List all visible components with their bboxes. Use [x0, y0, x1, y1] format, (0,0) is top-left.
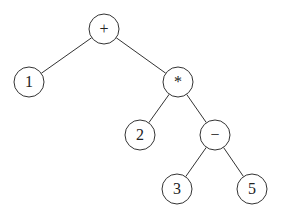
- expression-tree-diagram: +1*2−35: [0, 0, 281, 217]
- node-label: 5: [248, 180, 256, 197]
- edge-n_plus-n_mul: [116, 38, 166, 74]
- tree-node: 5: [237, 174, 267, 204]
- node-label: 2: [136, 126, 144, 143]
- node-label: −: [210, 126, 219, 143]
- edge-n_minus-n_3: [186, 147, 207, 176]
- tree-node: 2: [125, 120, 155, 150]
- tree-node: 3: [162, 174, 192, 204]
- edge-n_mul-n_2: [149, 94, 170, 123]
- node-label: +: [99, 20, 108, 37]
- tree-node: 1: [14, 67, 44, 97]
- edges: [41, 38, 243, 177]
- edge-n_minus-n_5: [223, 147, 243, 176]
- nodes: +1*2−35: [14, 14, 267, 204]
- edge-n_mul-n_minus: [187, 94, 207, 122]
- node-label: 3: [173, 180, 181, 197]
- tree-node: −: [200, 120, 230, 150]
- node-label: *: [174, 73, 182, 90]
- tree-node: *: [163, 67, 193, 97]
- tree-canvas: +1*2−35: [0, 0, 281, 217]
- edge-n_plus-n_1: [41, 38, 92, 74]
- node-label: 1: [25, 73, 33, 90]
- tree-node: +: [89, 14, 119, 44]
